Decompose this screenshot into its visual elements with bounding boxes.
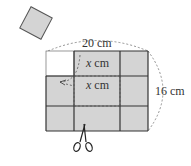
cut-length-label-side: x cm xyxy=(85,78,110,92)
cut-out-square xyxy=(20,7,52,39)
box-net-diagram: 20 cm 16 cm x cm x cm xyxy=(0,0,191,166)
width-label: 20 cm xyxy=(82,36,112,50)
cut-length-label-top: x cm xyxy=(85,56,110,70)
height-label: 16 cm xyxy=(155,84,185,98)
cut-corner xyxy=(46,51,74,76)
